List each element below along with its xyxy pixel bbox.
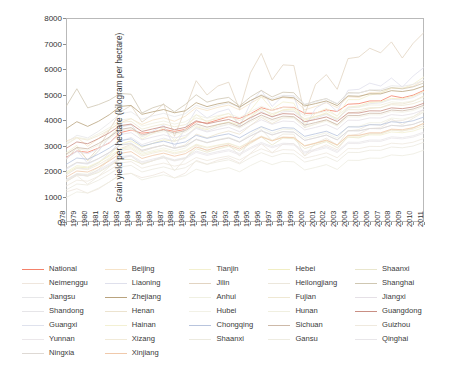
legend-label: Shaanxi [382, 265, 409, 273]
x-tick-label: 1998 [274, 211, 283, 227]
legend-label: Hebei [295, 265, 315, 273]
legend-column: BeijingLiaoningZhejiangHenanHainanXizang… [105, 262, 190, 360]
legend-color-swatch [355, 339, 377, 340]
legend-item[interactable]: Guangxi [22, 318, 105, 332]
legend-label: Sichuan [295, 321, 322, 329]
legend-item[interactable]: Jiangxi [355, 290, 432, 304]
legend-column: HebeiHeilongjiangFujianHunanSichuanGansu [268, 262, 355, 360]
y-tick-label: 1000 [44, 192, 62, 201]
legend-label: Gansu [295, 335, 317, 343]
x-tick-label: 2005 [350, 211, 359, 227]
legend-item[interactable]: Henan [105, 304, 190, 318]
legend-label: Guangxi [49, 321, 77, 329]
x-tick-label: 1985 [133, 211, 142, 227]
legend-label: Fujian [295, 293, 316, 301]
legend-color-swatch [355, 269, 377, 270]
x-tick-label: 2004 [340, 211, 349, 227]
legend-item[interactable]: Guangdong [355, 304, 432, 318]
x-tick-label: 1993 [220, 211, 229, 227]
legend-item[interactable]: Tianjin [189, 262, 268, 276]
x-tick-label: 1978 [58, 211, 67, 227]
legend-color-swatch [22, 311, 44, 312]
legend-item[interactable]: Shanghai [355, 276, 432, 290]
legend-item[interactable]: Qinghai [355, 332, 432, 346]
x-tick-label: 2007 [372, 211, 381, 227]
legend-color-swatch [355, 325, 377, 326]
y-tick-label: 7000 [44, 39, 62, 48]
x-tick-label: 2003 [329, 211, 338, 227]
legend-item[interactable]: Hunan [268, 304, 355, 318]
legend-item[interactable]: Shaanxi [355, 262, 432, 276]
legend-item[interactable]: Xinjiang [105, 346, 190, 360]
x-tick-label: 2000 [296, 211, 305, 227]
legend-item[interactable]: Yunnan [22, 332, 105, 346]
legend-color-swatch [105, 283, 127, 284]
legend-item[interactable]: Beijing [105, 262, 190, 276]
legend-label: Neimenggu [49, 279, 88, 287]
legend-color-swatch [268, 283, 290, 284]
legend-color-swatch [189, 339, 211, 340]
legend-item[interactable]: Guizhou [355, 318, 432, 332]
legend-item[interactable]: Hainan [105, 318, 190, 332]
x-tick-label: 1995 [242, 211, 251, 227]
legend-item[interactable]: National [22, 262, 105, 276]
x-tick-label: 2009 [394, 211, 403, 227]
legend-item[interactable]: Heilongjiang [268, 276, 355, 290]
x-tick-label: 1990 [188, 211, 197, 227]
legend-item[interactable]: Shandong [22, 304, 105, 318]
legend-item[interactable]: Liaoning [105, 276, 190, 290]
x-tick-label: 1979 [68, 211, 77, 227]
legend-item[interactable]: Xizang [105, 332, 190, 346]
legend-label: Ningxia [49, 349, 74, 357]
legend-color-swatch [22, 353, 44, 354]
chart-plot-area: Grain yield per hectare (kilogram per he… [66, 18, 424, 222]
y-tick-mark [63, 44, 66, 45]
x-tick-label: 1994 [231, 211, 240, 227]
y-tick-label: 2000 [44, 167, 62, 176]
y-tick-mark [63, 18, 66, 19]
legend-item[interactable]: Chongqing [189, 318, 268, 332]
x-tick-label: 1991 [199, 211, 208, 227]
legend-item[interactable]: Gansu [268, 332, 355, 346]
legend-column: NationalNeimengguJiangsuShandongGuangxiY… [22, 262, 105, 360]
legend-color-swatch [268, 339, 290, 340]
x-tick-mark [391, 222, 392, 225]
legend-color-swatch [189, 283, 211, 284]
legend-item[interactable]: Zhejiang [105, 290, 190, 304]
legend-color-swatch [105, 297, 127, 298]
x-tick-label: 1984 [123, 211, 132, 227]
x-tick-label: 1996 [253, 211, 262, 227]
legend-item[interactable]: Hebei [268, 262, 355, 276]
legend-color-swatch [22, 269, 44, 270]
x-tick-label: 2001 [307, 211, 316, 227]
legend-item[interactable]: Jilin [189, 276, 268, 290]
legend-label: Hainan [132, 321, 156, 329]
x-tick-label: 1988 [166, 211, 175, 227]
legend-item[interactable]: Hubei [189, 304, 268, 318]
legend-item[interactable]: Ningxia [22, 346, 105, 360]
legend-item[interactable]: Shaanxi [189, 332, 268, 346]
legend-item[interactable]: Fujian [268, 290, 355, 304]
chart-page: Grain yield per hectare (kilogram per he… [0, 0, 449, 369]
legend-label: Henan [132, 307, 154, 315]
x-tick-mark [174, 222, 175, 225]
legend-color-swatch [355, 311, 377, 312]
x-tick-label: 1997 [264, 211, 273, 227]
legend-label: Zhejiang [132, 293, 161, 301]
y-tick-mark [63, 120, 66, 121]
legend-item[interactable]: Neimenggu [22, 276, 105, 290]
legend-column: TianjinJilinAnhuiHubeiChongqingShaanxi [189, 262, 268, 360]
chart-legend: NationalNeimengguJiangsuShandongGuangxiY… [22, 262, 432, 360]
legend-color-swatch [189, 311, 211, 312]
y-tick-label: 3000 [44, 141, 62, 150]
legend-label: Liaoning [132, 279, 161, 287]
legend-color-swatch [268, 269, 290, 270]
legend-item[interactable]: Anhui [189, 290, 268, 304]
legend-label: Yunnan [49, 335, 75, 343]
y-tick-mark [63, 69, 66, 70]
legend-item[interactable]: Sichuan [268, 318, 355, 332]
legend-label: Xinjiang [132, 349, 159, 357]
legend-item[interactable]: Jiangsu [22, 290, 105, 304]
legend-color-swatch [22, 339, 44, 340]
y-tick-label: 6000 [44, 65, 62, 74]
